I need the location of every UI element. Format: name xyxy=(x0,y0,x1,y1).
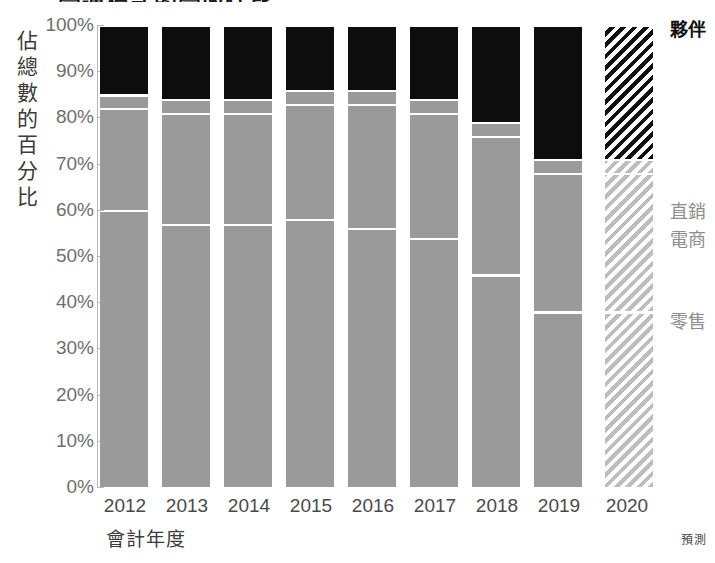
bar-segment-2016-direct[interactable] xyxy=(348,92,396,104)
y-tick-60: 60% xyxy=(38,199,94,221)
legend-item-direct: 直銷 xyxy=(670,200,706,224)
bar-segment-2012-direct[interactable] xyxy=(100,97,148,109)
x-tick-2013: 2013 xyxy=(152,495,222,517)
y-tick-70: 70% xyxy=(38,153,94,175)
bar-segment-2019-direct[interactable] xyxy=(534,161,582,173)
y-axis-tick-labels: 0% 10% 20% 30% 40% 50% 60% 70% 80% 90% 1… xyxy=(38,25,94,487)
x-tick-2017: 2017 xyxy=(400,495,470,517)
bar-segment-2014-retail[interactable] xyxy=(224,226,272,487)
page-title: 營運模式的營收佔比 xyxy=(58,0,274,2)
bar-2017[interactable] xyxy=(410,25,458,487)
x-tick-2018: 2018 xyxy=(462,495,532,517)
bar-segment-2016-ecom[interactable] xyxy=(348,106,396,229)
bar-2016[interactable] xyxy=(348,25,396,487)
bar-segment-2019-partner[interactable] xyxy=(534,27,582,159)
x-tick-2015: 2015 xyxy=(276,495,346,517)
bar-segment-2018-retail[interactable] xyxy=(472,277,520,487)
bar-2012[interactable] xyxy=(100,25,148,487)
y-tick-10: 10% xyxy=(38,430,94,452)
legend-item-retail: 零售 xyxy=(670,310,706,334)
bar-segment-2013-retail[interactable] xyxy=(162,226,210,487)
bar-segment-2015-partner[interactable] xyxy=(286,27,334,89)
bar-segment-2020-ecom[interactable] xyxy=(605,175,653,311)
bar-segment-2014-partner[interactable] xyxy=(224,27,272,99)
bar-2020[interactable] xyxy=(605,25,653,487)
y-tick-0: 0% xyxy=(38,476,94,498)
bar-segment-2017-direct[interactable] xyxy=(410,101,458,113)
bar-segment-2017-ecom[interactable] xyxy=(410,115,458,238)
bar-2018[interactable] xyxy=(472,25,520,487)
bar-segment-2013-ecom[interactable] xyxy=(162,115,210,224)
bar-segment-2013-partner[interactable] xyxy=(162,27,210,99)
y-tick-90: 90% xyxy=(38,60,94,82)
bar-segment-2015-ecom[interactable] xyxy=(286,106,334,219)
bar-segment-2017-partner[interactable] xyxy=(410,27,458,99)
bar-2019[interactable] xyxy=(534,25,582,487)
bar-segment-2012-retail[interactable] xyxy=(100,212,148,487)
bar-segment-2014-ecom[interactable] xyxy=(224,115,272,224)
bar-2013[interactable] xyxy=(162,25,210,487)
bar-segment-2016-retail[interactable] xyxy=(348,230,396,487)
x-tick-2020: 2020 xyxy=(592,495,662,517)
x-axis-title: 會計年度 xyxy=(106,524,186,551)
bar-segment-2019-retail[interactable] xyxy=(534,314,582,487)
x-tick-2012: 2012 xyxy=(90,495,160,517)
y-tick-50: 50% xyxy=(38,245,94,267)
bar-segment-2013-direct[interactable] xyxy=(162,101,210,113)
bar-2014[interactable] xyxy=(224,25,272,487)
bar-segment-2016-partner[interactable] xyxy=(348,27,396,89)
bar-segment-2015-retail[interactable] xyxy=(286,221,334,487)
x-tick-2016: 2016 xyxy=(338,495,408,517)
legend-item-ecom: 電商 xyxy=(670,228,706,252)
bar-segment-2018-ecom[interactable] xyxy=(472,138,520,274)
y-tick-100: 100% xyxy=(38,14,94,36)
x-tick-2014: 2014 xyxy=(214,495,284,517)
x-tick-2019: 2019 xyxy=(524,495,594,517)
y-tick-40: 40% xyxy=(38,291,94,313)
bar-segment-2018-partner[interactable] xyxy=(472,27,520,122)
y-tick-30: 30% xyxy=(38,337,94,359)
y-tick-20: 20% xyxy=(38,384,94,406)
bar-segment-2020-partner[interactable] xyxy=(605,27,653,159)
bar-segment-2012-ecom[interactable] xyxy=(100,110,148,209)
bar-segment-2020-retail[interactable] xyxy=(605,314,653,487)
forecast-note: 預測 xyxy=(681,530,707,547)
bar-segment-2015-direct[interactable] xyxy=(286,92,334,104)
bar-segment-2020-direct[interactable] xyxy=(605,161,653,173)
bar-segment-2014-direct[interactable] xyxy=(224,101,272,113)
y-tickmark-0 xyxy=(97,487,104,488)
y-tick-80: 80% xyxy=(38,106,94,128)
bar-2015[interactable] xyxy=(286,25,334,487)
bar-segment-2018-direct[interactable] xyxy=(472,124,520,136)
bar-segment-2017-retail[interactable] xyxy=(410,240,458,487)
bar-segment-2019-ecom[interactable] xyxy=(534,175,582,311)
plot-area xyxy=(100,25,645,487)
legend-item-partner: 夥伴 xyxy=(670,18,706,42)
bar-segment-2012-partner[interactable] xyxy=(100,27,148,94)
